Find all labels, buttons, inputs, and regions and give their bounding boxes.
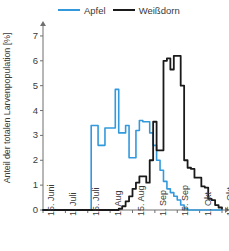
- x-tick-label: 15. Aug: [137, 185, 146, 216]
- y-tick-label: 0: [22, 205, 38, 215]
- y-tick-label: 3: [22, 130, 38, 140]
- x-tick-label: 15. Juli: [92, 187, 101, 216]
- y-tick-label: 1: [22, 180, 38, 190]
- x-tick-label: 15. Okt: [226, 187, 229, 216]
- x-tick-label: 1. Sep: [159, 190, 168, 216]
- y-tick-label: 7: [22, 31, 38, 41]
- chart-container: Apfel Weißdorn Anteil der totalen Larven…: [0, 0, 229, 251]
- y-tick-label: 4: [22, 106, 38, 116]
- x-tick-label: 15. Sep: [181, 185, 190, 216]
- x-tick-label: 1. Juli: [69, 192, 78, 216]
- y-tick-label: 6: [22, 56, 38, 66]
- series-line-weißdorn: [43, 56, 222, 210]
- y-tick-label: 5: [22, 81, 38, 91]
- data-series-group: [43, 56, 222, 210]
- y-tick-label: 2: [22, 155, 38, 165]
- x-tick-label: 15. Juni: [47, 184, 56, 216]
- x-tick-label: 1. Okt: [204, 192, 213, 216]
- x-tick-label: 1. Aug: [114, 190, 123, 216]
